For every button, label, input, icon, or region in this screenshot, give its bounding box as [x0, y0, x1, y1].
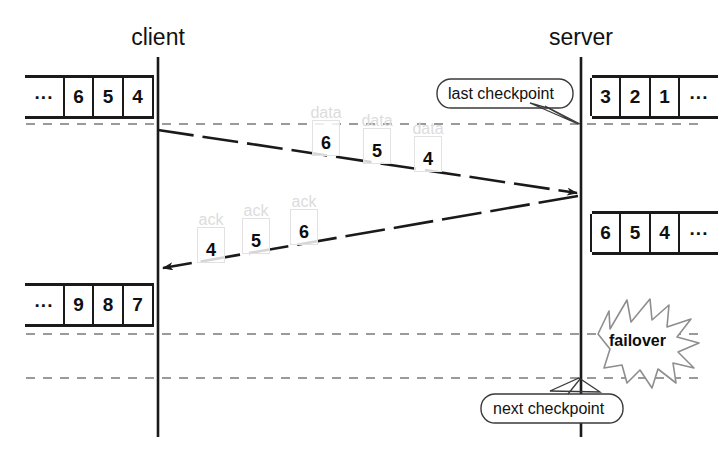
queue-cell: ...: [25, 78, 65, 116]
data-token-tag: data: [309, 104, 343, 122]
client-queue-after: ... 9 8 7: [25, 283, 154, 327]
ack-message-arrow: [163, 196, 578, 268]
server-queue-after: 6 5 4 ...: [592, 211, 718, 255]
data-token-value: 4: [414, 149, 442, 170]
next-checkpoint-label: next checkpoint: [493, 400, 604, 418]
queue-cell: 6: [590, 214, 622, 252]
data-token-value: 5: [363, 141, 391, 162]
lane-title-client: client: [108, 24, 208, 51]
server-queue-before: 3 2 1 ...: [592, 75, 718, 119]
queue-cell: ...: [25, 286, 65, 324]
sequence-diagram: client server ... 6 5 4 3 2 1 ... 6 5 4 …: [0, 0, 728, 463]
queue-cell: 5: [92, 78, 124, 116]
ack-token-tag: ack: [239, 202, 273, 220]
queue-cell: 5: [619, 214, 651, 252]
lane-title-server: server: [531, 24, 631, 51]
ack-token-value: 4: [197, 240, 225, 261]
queue-cell: 4: [649, 214, 681, 252]
ack-token-tag: ack: [287, 193, 321, 211]
queue-cell: 9: [63, 286, 95, 324]
last-checkpoint-label: last checkpoint: [448, 85, 554, 103]
data-token-tag: data: [360, 112, 394, 130]
queue-cell: 3: [590, 78, 622, 116]
ack-token-tag: ack: [194, 211, 228, 229]
ack-token-value: 5: [242, 231, 270, 252]
ack-token-value: 6: [290, 222, 318, 243]
data-token-tag: data: [411, 120, 445, 138]
client-queue-before: ... 6 5 4: [25, 75, 154, 119]
data-token-value: 6: [312, 133, 340, 154]
queue-cell: 8: [92, 286, 124, 324]
queue-cell: 2: [619, 78, 651, 116]
queue-cell: 1: [649, 78, 681, 116]
queue-cell: 4: [122, 78, 154, 116]
queue-cell: 6: [63, 78, 95, 116]
queue-cell: 7: [122, 286, 154, 324]
queue-cell: ...: [678, 214, 718, 252]
failover-label: failover: [609, 332, 666, 350]
queue-cell: ...: [678, 78, 718, 116]
